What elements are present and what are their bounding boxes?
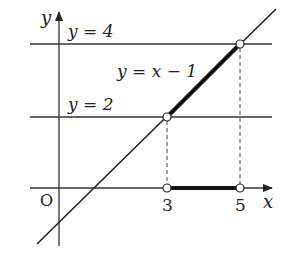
label-y-equals-2: y = 2: [67, 94, 113, 114]
open-point-3-2: [163, 113, 171, 121]
tick-label-5: 5: [235, 195, 246, 215]
graph-figure: y x O y = 4 y = 2 y = x − 1 3 5: [0, 0, 289, 261]
origin-label: O: [40, 191, 53, 210]
open-point-5-4: [236, 40, 244, 48]
open-point-3-0: [163, 184, 171, 192]
tick-label-3: 3: [162, 195, 173, 215]
label-y-equals-x-minus-1: y = x − 1: [116, 61, 197, 81]
y-axis-label: y: [40, 7, 52, 28]
x-axis-label: x: [263, 191, 273, 212]
label-y-equals-4: y = 4: [67, 21, 113, 41]
open-point-5-0: [236, 184, 244, 192]
